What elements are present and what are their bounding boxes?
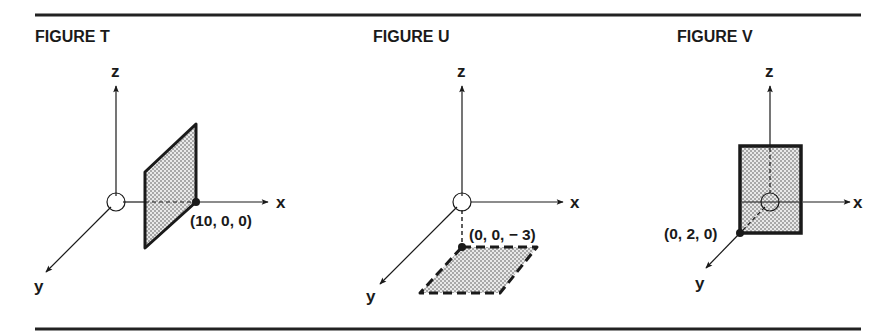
figure-t-point-icon (192, 198, 200, 206)
figure-v-x-label: x (853, 193, 863, 212)
figure-t-point-label: (10, 0, 0) (190, 212, 252, 229)
figure-v-y-label: y (695, 274, 705, 293)
figure-t-z-label: z (111, 62, 120, 81)
figure-t-plane (145, 124, 196, 248)
figure-v-point-label: (0, 2, 0) (664, 225, 717, 242)
figure-u-point-icon (458, 243, 466, 251)
figure-u-y-label: y (366, 287, 376, 306)
figure-t-y-axis (46, 207, 111, 272)
figure-v-title: FIGURE V (677, 28, 753, 45)
figure-v-plane (740, 146, 801, 233)
figures-canvas: FIGURE T z x y (10, 0, 0) FIGURE U z x (0, 0, 895, 336)
figure-v: FIGURE V z x y (0, 2, 0) (664, 28, 863, 293)
figure-t-title: FIGURE T (35, 28, 110, 45)
figure-u-x-label: x (570, 193, 580, 212)
figure-v-z-label: z (765, 62, 774, 81)
figure-v-point-icon (736, 229, 744, 237)
figure-u-point-label: (0, 0, − 3) (469, 226, 536, 243)
figure-panel: FIGURE T z x y (10, 0, 0) FIGURE U z x (0, 0, 895, 336)
figure-u-title: FIGURE U (373, 28, 449, 45)
figure-u: FIGURE U z x y (0, 0, − 3) (366, 28, 580, 306)
figure-u-plane (420, 247, 537, 293)
figure-u-z-label: z (457, 62, 466, 81)
figure-t: FIGURE T z x y (10, 0, 0) (34, 28, 286, 296)
figure-t-y-label: y (34, 277, 44, 296)
figure-t-x-label: x (276, 193, 286, 212)
